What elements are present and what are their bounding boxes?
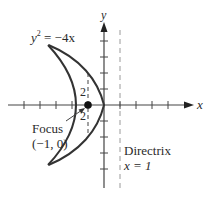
focus-label: Focus [32,122,63,135]
equation-label: y2 = −4x [31,31,75,44]
latus-upper-label: 2 [80,86,86,98]
x-axis [8,101,194,109]
equation-lhs-var: y [31,30,37,45]
equation-rhs: = −4x [41,30,75,45]
x-axis-label: x [197,98,203,111]
directrix-equation: x = 1 [124,159,152,172]
focus-point [84,101,92,109]
latus-lower-label: 2 [80,110,86,122]
focus-coords: (−1, 0) [32,137,68,150]
y-axis-label: y [101,9,106,21]
equation-exponent: 2 [37,29,41,38]
directrix-label: Directrix [124,144,171,157]
